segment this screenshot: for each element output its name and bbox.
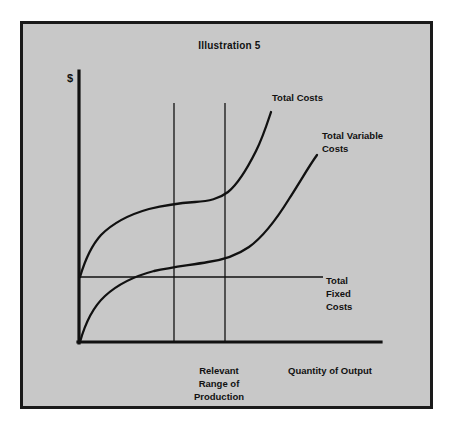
x-axis-label: Quantity of Output <box>288 364 372 377</box>
total-costs-label: Total Costs <box>272 91 323 104</box>
cost-behavior-chart <box>23 24 436 412</box>
total-variable-costs-label: Total Variable Costs <box>322 129 383 155</box>
illustration-figure: Illustration 5 $ Total Costs Total Varia… <box>0 0 452 432</box>
figure-frame: Illustration 5 $ Total Costs Total Varia… <box>20 21 433 409</box>
total-variable-costs-curve <box>80 155 317 342</box>
total-fixed-costs-label: Total Fixed Costs <box>326 274 352 313</box>
relevant-range-label: Relevant Range of Production <box>159 364 279 403</box>
y-axis-label: $ <box>67 72 73 84</box>
